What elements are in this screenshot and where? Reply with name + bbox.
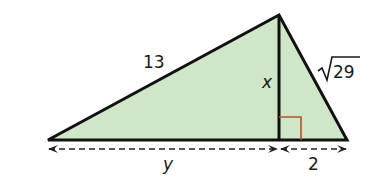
label-x: x <box>261 72 273 92</box>
svg-text:29: 29 <box>333 62 355 82</box>
label-2: 2 <box>308 154 319 174</box>
triangle-fill <box>48 15 347 140</box>
label-13: 13 <box>143 52 165 72</box>
label-sqrt29: 29 <box>318 57 360 82</box>
triangle-diagram: 13 x 29 y 2 <box>0 0 388 180</box>
label-y: y <box>162 154 174 174</box>
